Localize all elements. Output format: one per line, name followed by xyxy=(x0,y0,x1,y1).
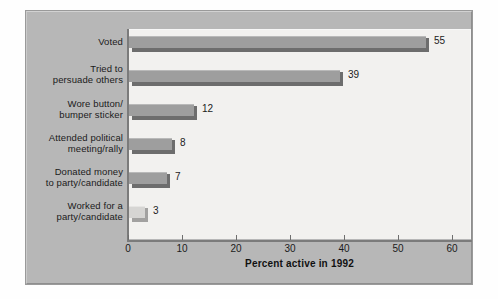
bar-shadow-face xyxy=(132,218,148,222)
bar-value-label: 55 xyxy=(434,35,445,46)
x-tick-label-50: 50 xyxy=(392,243,403,254)
category-label-line1: Attended political xyxy=(0,133,123,144)
x-tick-label-40: 40 xyxy=(338,243,349,254)
category-label-button-sticker: Wore button/ bumper sticker xyxy=(0,99,123,120)
bar-row: 3 xyxy=(129,206,151,222)
bar-row: 7 xyxy=(129,172,172,188)
bar-shadow-face xyxy=(132,116,197,120)
bar-shadow-face xyxy=(132,48,429,52)
category-label-line1: Donated money xyxy=(0,167,123,178)
category-label-donated-money: Donated money to party/candidate xyxy=(0,167,123,188)
bar-value-label: 12 xyxy=(202,103,213,114)
x-tick xyxy=(344,235,345,240)
category-label-line2: bumper sticker xyxy=(0,110,123,121)
x-tick-label-10: 10 xyxy=(176,243,187,254)
category-label-voted: Voted xyxy=(0,37,123,48)
bar-button-sticker xyxy=(129,104,194,116)
category-label-line2: persuade others xyxy=(0,75,123,86)
x-tick-label-0: 0 xyxy=(125,243,131,254)
bar-shadow-face xyxy=(132,184,170,188)
bar-shadow-face xyxy=(132,150,175,154)
value-axis-line xyxy=(127,240,472,242)
x-tick xyxy=(128,235,129,240)
x-tick xyxy=(236,235,237,240)
x-tick xyxy=(182,235,183,240)
category-label-persuade: Tried to persuade others xyxy=(0,64,123,85)
bar-value-label: 39 xyxy=(348,69,359,80)
figure-panel: Voted Tried to persuade others Wore butt… xyxy=(26,11,472,284)
x-tick xyxy=(290,235,291,240)
category-label-line1: Wore button/ xyxy=(0,99,123,110)
bar-donated-money xyxy=(129,172,167,184)
bar-chart: Voted Tried to persuade others Wore butt… xyxy=(26,11,472,284)
x-tick xyxy=(452,235,453,240)
plot-area xyxy=(127,29,471,239)
category-label-attended-meeting: Attended political meeting/rally xyxy=(0,133,123,154)
bar-voted xyxy=(129,36,426,48)
bar-row: 55 xyxy=(129,36,429,52)
bar-attended-meeting xyxy=(129,138,172,150)
bar-worked-for-party xyxy=(129,206,145,218)
bar-row: 8 xyxy=(129,138,177,154)
chart-screenshot: Voted Tried to persuade others Wore butt… xyxy=(0,0,498,299)
category-label-line2: party/candidate xyxy=(0,212,123,223)
bar-shadow-face xyxy=(132,82,343,86)
x-tick-label-20: 20 xyxy=(230,243,241,254)
x-tick-label-30: 30 xyxy=(284,243,295,254)
bar-value-label: 3 xyxy=(153,205,159,216)
x-axis-title: Percent active in 1992 xyxy=(127,258,472,269)
bar-persuade xyxy=(129,70,340,82)
category-label-worked-for-party: Worked for a party/candidate xyxy=(0,201,123,222)
bar-value-label: 7 xyxy=(175,171,181,182)
x-tick xyxy=(398,235,399,240)
category-label-line1: Voted xyxy=(0,37,123,48)
bar-value-label: 8 xyxy=(180,137,186,148)
x-tick-label-60: 60 xyxy=(446,243,457,254)
category-label-line1: Worked for a xyxy=(0,201,123,212)
category-label-line2: to party/candidate xyxy=(0,178,123,189)
category-label-line1: Tried to xyxy=(0,64,123,75)
bar-row: 12 xyxy=(129,104,199,120)
bar-row: 39 xyxy=(129,70,344,86)
category-label-line2: meeting/rally xyxy=(0,144,123,155)
